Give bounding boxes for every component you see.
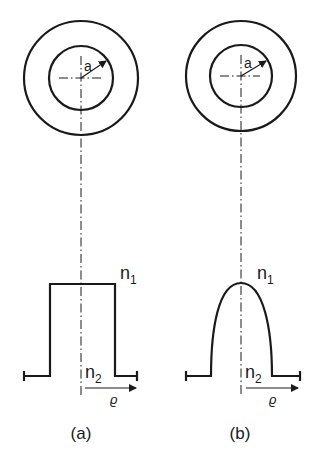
cladding-index-label-a: n2 xyxy=(85,362,102,386)
graded-index-profile xyxy=(186,283,300,376)
radial-axis-label-a: ϱ xyxy=(110,392,118,407)
step-index-profile xyxy=(24,284,137,376)
radius-label-b: a xyxy=(244,55,252,71)
panel-a: a n1 n2 ϱ (a) xyxy=(24,21,138,443)
fiber-profile-diagram: a n1 n2 ϱ (a) a n1 n2 ϱ (b) xyxy=(0,0,320,469)
radial-axis-label-b: ϱ xyxy=(269,392,277,407)
caption-a: (a) xyxy=(71,424,92,443)
panel-b: a n1 n2 ϱ (b) xyxy=(186,21,300,443)
core-index-label-a: n1 xyxy=(120,263,137,287)
core-index-label-b: n1 xyxy=(257,263,274,287)
caption-b: (b) xyxy=(230,424,251,443)
cladding-index-label-b: n2 xyxy=(245,362,262,386)
radius-label-a: a xyxy=(84,58,92,74)
